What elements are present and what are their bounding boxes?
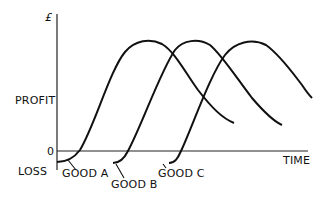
curve-good-c xyxy=(169,42,312,163)
good-b-label: GOOD B xyxy=(111,179,158,190)
loss-label: LOSS xyxy=(18,166,47,177)
time-label: TIME xyxy=(283,155,310,166)
zero-label: 0 xyxy=(47,146,54,157)
curve-good-b xyxy=(113,41,282,163)
good-b-pointer xyxy=(116,164,124,178)
profit-label: PROFIT xyxy=(15,95,55,106)
curve-good-a xyxy=(57,41,234,162)
good-a-label: GOOD A xyxy=(62,168,109,179)
currency-label: £ xyxy=(45,12,52,23)
good-c-label: GOOD C xyxy=(158,168,205,179)
